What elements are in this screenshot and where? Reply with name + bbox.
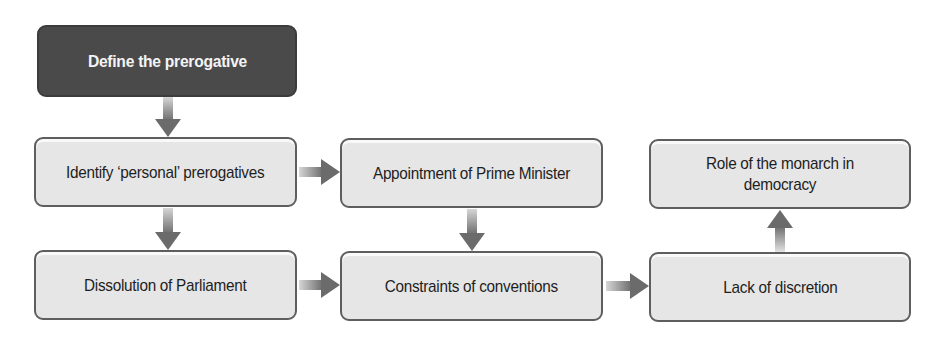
node-lack-of-discretion: Lack of discretion [649,252,911,322]
node-label: Define the prerogative [87,51,246,72]
arrow-right-icon [299,270,340,300]
node-label: Constraints of conventions [385,276,558,297]
arrow-right-icon [299,157,340,187]
node-label: Appointment of Prime Minister [373,163,570,184]
node-label: Dissolution of Parliament [84,275,246,296]
arrow-right-icon [606,271,649,301]
node-define-the-prerogative: Define the prerogative [37,25,297,97]
node-identify-personal-prerogatives: Identify ‘personal’ prerogatives [34,137,297,207]
arrow-down-icon [153,97,183,137]
node-constraints-of-conventions: Constraints of conventions [340,251,603,321]
node-label: Identify ‘personal’ prerogatives [66,162,264,183]
node-appointment-of-prime-minister: Appointment of Prime Minister [340,138,603,208]
arrow-down-icon [457,209,487,251]
node-label: Role of the monarch in democracy [690,153,870,195]
arrow-up-icon [765,210,795,252]
arrow-down-icon [153,208,183,250]
node-label: Lack of discretion [723,277,837,298]
node-role-of-the-monarch-in-democracy: Role of the monarch in democracy [649,139,911,209]
node-dissolution-of-parliament: Dissolution of Parliament [34,250,297,320]
